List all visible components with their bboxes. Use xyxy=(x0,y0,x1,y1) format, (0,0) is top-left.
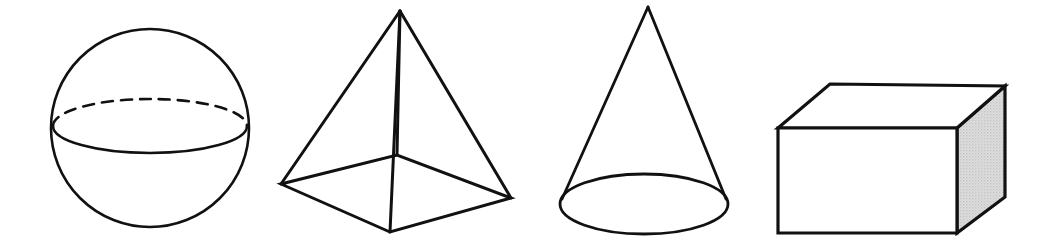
pyramid-base-face xyxy=(281,155,511,232)
cone-slant-right xyxy=(648,7,726,199)
pyramid-edge-apex-back xyxy=(397,11,400,155)
cone-slant-left xyxy=(562,7,648,199)
solids-illustration xyxy=(0,0,1058,248)
shape-cone xyxy=(560,7,728,234)
cone-base-ellipse xyxy=(560,174,728,234)
sphere-equator-front-solid xyxy=(53,126,247,153)
sphere-equator-back-dashed xyxy=(53,99,247,126)
box-front-face xyxy=(778,128,957,233)
shape-sphere xyxy=(51,29,249,227)
shape-box xyxy=(778,84,1005,233)
sphere-outline xyxy=(51,29,249,227)
shape-pyramid xyxy=(281,11,511,232)
geometric-solids-figure xyxy=(0,0,1058,248)
